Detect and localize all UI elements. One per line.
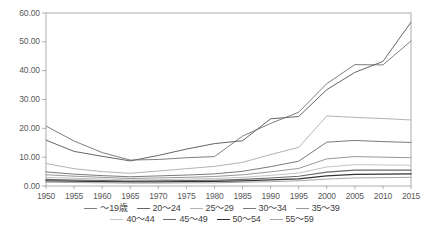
legend-line-icon	[84, 208, 97, 209]
legend-label: 45～49	[179, 215, 207, 224]
legend-item-50～54[interactable]: 50～54	[217, 215, 261, 224]
legend-row-1: 40～4445～4950～5455～59	[110, 215, 313, 224]
x-tick-label-5: 1975	[171, 191, 201, 201]
y-tick-label-6: 60.00	[6, 8, 40, 18]
legend-item-～19歳[interactable]: ～19歳	[84, 204, 127, 213]
legend-label: 25～29	[206, 204, 234, 213]
legend-item-30～34[interactable]: 30～34	[243, 204, 287, 213]
x-tick-label-3: 1965	[115, 191, 145, 201]
legend-label: 50～54	[233, 215, 261, 224]
x-tick-label-13: 2015	[396, 191, 424, 201]
y-tick-label-3: 30.00	[6, 94, 40, 104]
y-tick-label-5: 50.00	[6, 36, 40, 46]
legend-line-icon	[137, 208, 150, 209]
legend-label: 35～39	[312, 204, 340, 213]
plot-area: 0.0010.0020.0030.0040.0050.0060.00 19501…	[0, 0, 424, 200]
y-tick-label-2: 20.00	[6, 123, 40, 133]
legend-item-25～29[interactable]: 25～29	[190, 204, 234, 213]
axes-group	[42, 13, 411, 189]
y-tick-label-1: 10.00	[6, 152, 40, 162]
legend-label: 30～34	[259, 204, 287, 213]
legend-line-icon	[270, 219, 283, 220]
legend-row-0: ～19歳20～2425～2930～3435～39	[84, 204, 339, 213]
legend-item-35～39[interactable]: 35～39	[296, 204, 340, 213]
legend-line-icon	[190, 208, 203, 209]
x-tick-label-1: 1955	[59, 191, 89, 201]
x-tick-label-7: 1985	[228, 191, 258, 201]
x-tick-label-10: 2000	[312, 191, 342, 201]
legend-line-icon	[217, 219, 230, 220]
legend-line-icon	[243, 208, 256, 209]
chart-svg	[0, 0, 424, 200]
plot-border	[46, 13, 411, 186]
legend-label: 55～59	[286, 215, 314, 224]
x-tick-label-11: 2005	[340, 191, 370, 201]
legend-line-icon	[296, 208, 309, 209]
y-tick-label-4: 40.00	[6, 65, 40, 75]
legend-item-45～49[interactable]: 45～49	[163, 215, 207, 224]
legend-line-icon	[110, 219, 123, 220]
chart-legend: ～19歳20～2425～2930～3435～3940～4445～4950～545…	[0, 204, 424, 224]
legend-item-55～59[interactable]: 55～59	[270, 215, 314, 224]
legend-label: 20～24	[153, 204, 181, 213]
legend-item-20～24[interactable]: 20～24	[137, 204, 181, 213]
x-tick-label-12: 2010	[368, 191, 398, 201]
x-tick-label-2: 1960	[87, 191, 117, 201]
x-tick-label-6: 1980	[199, 191, 229, 201]
x-tick-label-0: 1950	[31, 191, 61, 201]
y-tick-label-0: 0.00	[6, 181, 40, 191]
legend-label: ～19歳	[100, 204, 127, 213]
legend-line-icon	[163, 219, 176, 220]
x-tick-label-9: 1995	[284, 191, 314, 201]
legend-item-40～44[interactable]: 40～44	[110, 215, 154, 224]
x-tick-label-4: 1970	[143, 191, 173, 201]
line-chart: 0.0010.0020.0030.0040.0050.0060.00 19501…	[0, 0, 424, 246]
legend-label: 40～44	[126, 215, 154, 224]
x-tick-label-8: 1990	[256, 191, 286, 201]
